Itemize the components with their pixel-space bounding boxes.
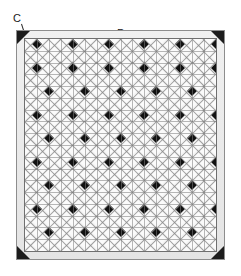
pattern-cell — [85, 63, 97, 75]
pattern-cell — [73, 239, 85, 251]
pattern-cell — [121, 39, 133, 51]
pattern-cell — [97, 63, 109, 75]
pattern-cell — [97, 133, 109, 145]
pattern-cell — [180, 74, 192, 86]
pattern-cell — [73, 74, 85, 86]
pattern-cell — [192, 39, 204, 51]
pattern-cell — [156, 51, 168, 63]
pattern-cell — [168, 192, 180, 204]
pattern-cell — [168, 133, 180, 145]
pattern-cell — [132, 98, 144, 110]
pattern-cell — [204, 121, 216, 133]
pattern-cell — [73, 204, 85, 216]
pattern-cell — [144, 192, 156, 204]
pattern-cell — [37, 192, 49, 204]
pattern-cell — [37, 133, 49, 145]
pattern-cell — [180, 86, 192, 98]
pattern-cell — [109, 133, 121, 145]
pattern-cell — [85, 121, 97, 133]
pattern-cell — [156, 204, 168, 216]
pattern-cell — [168, 216, 180, 228]
pattern-cell — [85, 110, 97, 122]
pattern-cell — [109, 169, 121, 181]
pattern-cell — [144, 121, 156, 133]
pattern-cell — [168, 110, 180, 122]
pattern-cell — [61, 133, 73, 145]
pattern-cell — [49, 204, 61, 216]
pattern-cell — [144, 180, 156, 192]
pattern-cell — [37, 239, 49, 251]
pattern-cell — [180, 51, 192, 63]
pattern-cell — [49, 86, 61, 98]
pattern-cell — [121, 169, 133, 181]
pattern-cell — [180, 145, 192, 157]
pattern-cell — [109, 157, 121, 169]
pattern-cell — [168, 180, 180, 192]
pattern-cell — [121, 145, 133, 157]
pattern-cell — [132, 157, 144, 169]
pattern-cell — [25, 74, 37, 86]
pattern-cell — [204, 216, 216, 228]
pattern-cell — [156, 86, 168, 98]
pattern-cell — [204, 157, 216, 169]
pattern-cell — [180, 133, 192, 145]
pattern-cell — [144, 204, 156, 216]
pattern-cell — [73, 169, 85, 181]
pattern-cell — [121, 204, 133, 216]
pattern-cell — [180, 157, 192, 169]
pattern-cell — [180, 227, 192, 239]
pattern-cell — [180, 169, 192, 181]
pattern-cell — [61, 74, 73, 86]
pattern-cell — [85, 133, 97, 145]
pattern-cell — [156, 239, 168, 251]
pattern-cell — [25, 192, 37, 204]
pattern-cell — [132, 74, 144, 86]
pattern-cell — [109, 51, 121, 63]
pattern-cell — [85, 192, 97, 204]
pattern-cell — [97, 98, 109, 110]
pattern-cell — [73, 227, 85, 239]
pattern-cell — [168, 51, 180, 63]
pattern-cell — [168, 98, 180, 110]
pattern-cell — [49, 39, 61, 51]
pattern-cell — [61, 98, 73, 110]
pattern-field — [24, 38, 217, 252]
pattern-cell — [49, 192, 61, 204]
pattern-cell — [156, 63, 168, 75]
pattern-cell — [192, 98, 204, 110]
pattern-cell — [25, 86, 37, 98]
label-c: C — [13, 13, 21, 24]
pattern-cell — [97, 145, 109, 157]
pattern-cell — [168, 86, 180, 98]
pattern-cell — [73, 121, 85, 133]
pattern-cell — [85, 216, 97, 228]
pattern-cell — [109, 204, 121, 216]
pattern-cell — [132, 180, 144, 192]
pattern-cell — [25, 145, 37, 157]
pattern-cell — [156, 98, 168, 110]
pattern-cell — [61, 121, 73, 133]
pattern-cell — [156, 180, 168, 192]
pattern-cell — [180, 180, 192, 192]
pattern-cell — [144, 86, 156, 98]
pattern-cell — [144, 110, 156, 122]
pattern-cell — [61, 227, 73, 239]
figure-root: C D E — [0, 0, 241, 276]
pattern-cell — [37, 180, 49, 192]
pattern-cell — [73, 63, 85, 75]
pattern-cell — [132, 133, 144, 145]
pattern-cell — [25, 98, 37, 110]
pattern-cell — [204, 239, 216, 251]
pattern-cell — [144, 39, 156, 51]
pattern-cell — [121, 110, 133, 122]
pattern-cell — [61, 239, 73, 251]
pattern-cell — [204, 133, 216, 145]
pattern-cell — [132, 169, 144, 181]
pattern-cell — [132, 145, 144, 157]
pattern-cell — [97, 180, 109, 192]
pattern-cell — [49, 74, 61, 86]
pattern-cell — [132, 121, 144, 133]
pattern-cell — [109, 216, 121, 228]
pattern-cell — [121, 227, 133, 239]
pattern-cell — [85, 169, 97, 181]
